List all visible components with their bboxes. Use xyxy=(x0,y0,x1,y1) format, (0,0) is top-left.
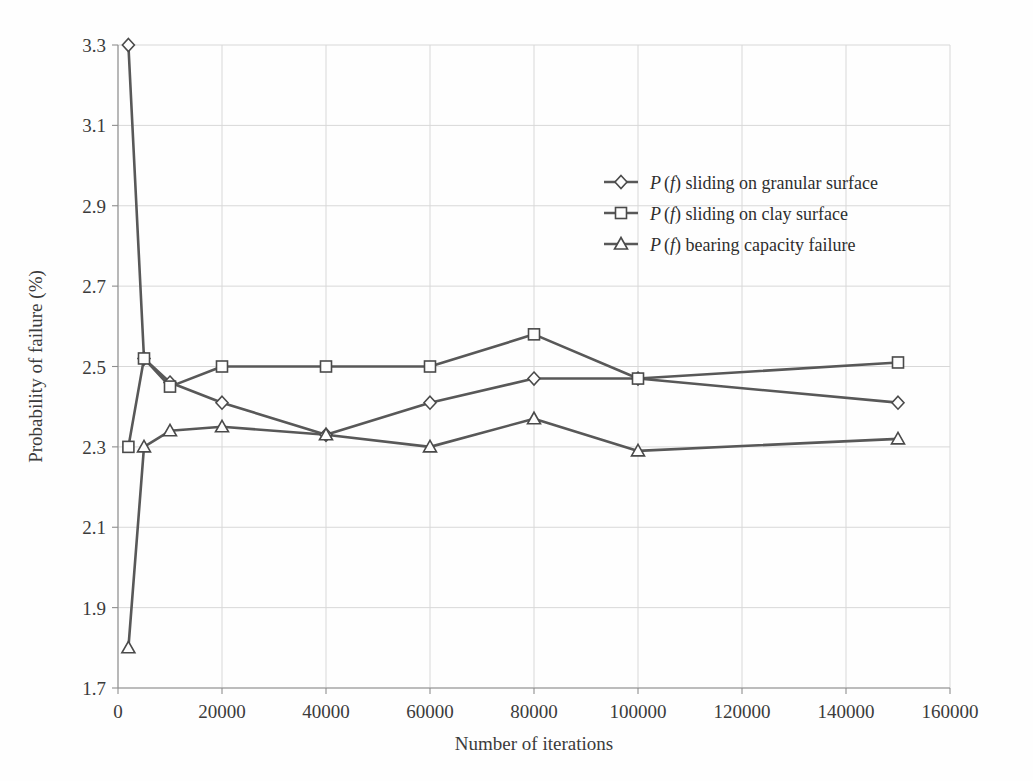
series-1-marker xyxy=(217,361,228,372)
legend-symbol-p: P xyxy=(649,173,661,193)
series-markers-group xyxy=(122,39,905,653)
x-tick-label: 140000 xyxy=(818,701,875,722)
series-0-marker xyxy=(216,396,228,409)
legend-marker-square-icon xyxy=(616,208,627,219)
y-tick-label: 2.9 xyxy=(82,196,106,217)
x-tick-label: 0 xyxy=(113,701,123,722)
y-tick-label: 1.7 xyxy=(82,678,106,699)
legend-text: sliding on clay surface xyxy=(681,204,848,224)
x-tick-label: 40000 xyxy=(302,701,350,722)
y-tick-label: 2.3 xyxy=(82,437,106,458)
legend-marker-diamond-icon xyxy=(615,176,627,189)
x-tick-label: 80000 xyxy=(510,701,558,722)
series-0-marker xyxy=(892,396,904,409)
x-axis-title: Number of iterations xyxy=(455,733,613,754)
series-1-marker xyxy=(139,353,150,364)
legend-text: sliding on granular surface xyxy=(681,173,878,193)
legend-symbol-p: P xyxy=(649,204,661,224)
series-1-marker xyxy=(123,441,134,452)
x-tick-label: 100000 xyxy=(610,701,667,722)
series-line-2 xyxy=(128,419,898,648)
y-tick-label: 3.1 xyxy=(82,115,106,136)
y-tick-label: 1.9 xyxy=(82,598,106,619)
legend-text: bearing capacity failure xyxy=(681,235,855,255)
legend-symbol-p: P xyxy=(649,235,661,255)
y-axis-title: Probability of failure (%) xyxy=(25,270,47,463)
y-tick-label: 2.5 xyxy=(82,357,106,378)
x-tick-label: 160000 xyxy=(922,701,979,722)
series-1-marker xyxy=(165,381,176,392)
series-2-marker xyxy=(122,641,135,653)
legend-label: P(f) bearing capacity failure xyxy=(649,235,855,256)
series-1-marker xyxy=(425,361,436,372)
chart-page: 0200004000060000800001000001200001400001… xyxy=(0,0,1033,781)
series-lines-group xyxy=(128,45,898,648)
y-tick-labels: 1.71.92.12.32.52.72.93.13.3 xyxy=(82,35,106,699)
series-0-marker xyxy=(528,372,540,385)
line-chart: 0200004000060000800001000001200001400001… xyxy=(0,0,1033,781)
series-0-marker xyxy=(424,396,436,409)
series-1-marker xyxy=(529,329,540,340)
x-tick-label: 120000 xyxy=(714,701,771,722)
x-tick-label: 60000 xyxy=(406,701,454,722)
x-tick-label: 20000 xyxy=(198,701,246,722)
y-tick-label: 2.1 xyxy=(82,517,106,538)
legend-entry: P(f) sliding on clay surface xyxy=(604,204,848,225)
legend-label: P(f) sliding on granular surface xyxy=(649,173,878,194)
series-0-marker xyxy=(122,39,134,52)
tickmarks-group xyxy=(112,45,950,694)
legend-entry: P(f) bearing capacity failure xyxy=(604,235,855,256)
legend-label: P(f) sliding on clay surface xyxy=(649,204,848,225)
y-tick-label: 3.3 xyxy=(82,35,106,56)
series-1-marker xyxy=(633,373,644,384)
legend: P(f) sliding on granular surfaceP(f) sli… xyxy=(604,173,878,256)
legend-entry: P(f) sliding on granular surface xyxy=(604,173,878,194)
x-tick-labels: 0200004000060000800001000001200001400001… xyxy=(113,701,978,722)
series-line-1 xyxy=(128,334,898,447)
series-2-marker xyxy=(138,440,151,452)
y-tick-label: 2.7 xyxy=(82,276,106,297)
series-1-marker xyxy=(893,357,904,368)
series-2-marker xyxy=(528,412,541,424)
series-1-marker xyxy=(321,361,332,372)
